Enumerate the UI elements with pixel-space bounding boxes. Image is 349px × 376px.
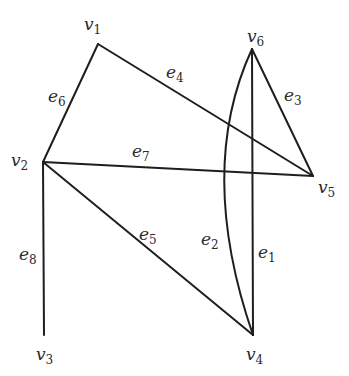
vertex-label-v2: v2 — [11, 150, 28, 173]
vertex-label-v1: v1 — [84, 14, 101, 37]
vertex-label-v6: v6 — [247, 26, 264, 49]
edge-label-e7: e7 — [132, 141, 150, 164]
vertex-label-v4: v4 — [246, 344, 264, 367]
edge-e2 — [224, 49, 253, 335]
edge-label-e1: e1 — [258, 242, 276, 265]
edge-label-e4: e4 — [166, 62, 184, 85]
vertex-label-v3: v3 — [36, 344, 53, 367]
graph-diagram: v1 v2 v3 v4 v5 v6 e1 e2 e3 e4 e5 e6 e7 e… — [0, 0, 349, 376]
edge-label-e8: e8 — [19, 244, 37, 267]
edges — [43, 44, 313, 335]
edge-e1 — [252, 49, 253, 335]
edge-e8 — [43, 162, 44, 335]
vertex-label-v5: v5 — [318, 177, 335, 200]
edge-label-e3: e3 — [284, 85, 302, 108]
edge-e7 — [43, 162, 313, 176]
edge-label-e6: e6 — [48, 86, 66, 109]
edge-label-e2: e2 — [201, 229, 219, 252]
edge-label-e5: e5 — [139, 224, 157, 247]
edge-e5 — [43, 162, 253, 335]
edge-labels: e1 e2 e3 e4 e5 e6 e7 e8 — [19, 62, 302, 267]
